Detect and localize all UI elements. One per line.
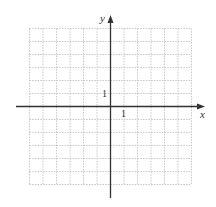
x-tick-label: 1 [121, 108, 126, 119]
y-axis-label: y [99, 12, 105, 24]
y-axis-arrow-icon [108, 15, 114, 23]
y-tick-label: 1 [102, 88, 107, 99]
x-axis-label: x [199, 108, 205, 120]
coordinate-plane: y x 1 1 [0, 0, 216, 207]
